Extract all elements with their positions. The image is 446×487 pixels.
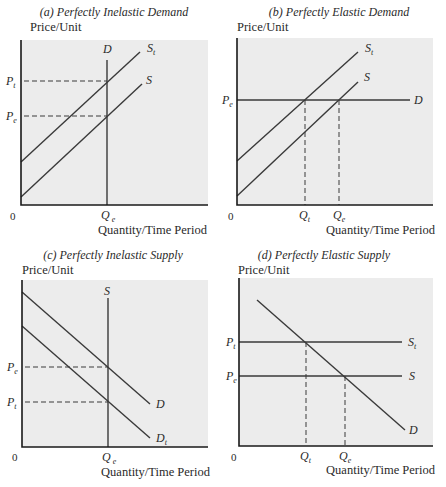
panel-a-xlabel: Quantity/Time Period bbox=[98, 223, 208, 237]
panel-b-ylabel: Price/Unit bbox=[237, 20, 289, 34]
panel-b-plot-area bbox=[237, 38, 433, 205]
panel-d-origin: 0 bbox=[231, 451, 237, 463]
panel-b: (b) Perfectly Elastic Demand Price/Unit … bbox=[221, 5, 436, 237]
panel-a-plot-area bbox=[21, 40, 208, 205]
tax-incidence-figure: (a) Perfectly Inelastic Demand Price/Uni… bbox=[0, 0, 446, 487]
panel-c-origin: 0 bbox=[12, 451, 18, 463]
panel-a-pe-label: Pe bbox=[5, 109, 17, 125]
panel-d-s-label: S bbox=[409, 369, 415, 383]
panel-c-qe-label: Qe bbox=[102, 450, 117, 466]
panel-a: (a) Perfectly Inelastic Demand Price/Uni… bbox=[5, 5, 208, 237]
panel-d-ylabel: Price/Unit bbox=[238, 263, 290, 277]
panel-b-pe-label: Pe bbox=[221, 93, 233, 109]
panel-d-pe-label: Pe bbox=[225, 369, 237, 385]
panel-b-xlabel: Quantity/Time Period bbox=[326, 223, 436, 237]
panel-a-origin: 0 bbox=[10, 210, 16, 222]
panel-b-origin: 0 bbox=[228, 210, 234, 222]
panel-c-ylabel: Price/Unit bbox=[22, 263, 74, 277]
panel-a-qe-label: Qe bbox=[101, 208, 116, 224]
panel-d-pt-label: Pt bbox=[225, 335, 236, 351]
panel-a-title: (a) Perfectly Inelastic Demand bbox=[40, 5, 189, 19]
panel-a-d-label: D bbox=[102, 42, 112, 56]
panel-b-s-label: S bbox=[364, 70, 370, 84]
panel-c: (c) Perfectly Inelastic Supply Price/Uni… bbox=[6, 248, 211, 479]
panel-c-pe-label: Pe bbox=[6, 360, 18, 376]
panel-c-d-label: D bbox=[155, 397, 165, 411]
panel-d-title: (d) Perfectly Elastic Supply bbox=[258, 248, 391, 262]
panel-c-plot-area bbox=[22, 280, 208, 447]
panel-a-s-label: S bbox=[146, 73, 152, 87]
panel-d-qt-label: Qt bbox=[300, 449, 312, 465]
panel-d: (d) Perfectly Elastic Supply Price/Unit … bbox=[225, 248, 436, 477]
panel-b-d-label: D bbox=[413, 93, 423, 107]
panel-b-qe-label: Qe bbox=[333, 208, 346, 224]
panel-c-xlabel: Quantity/Time Period bbox=[101, 465, 211, 479]
panel-a-pt-label: Pt bbox=[5, 74, 16, 90]
panel-d-xlabel: Quantity/Time Period bbox=[326, 463, 436, 477]
panel-a-ylabel: Price/Unit bbox=[30, 20, 82, 34]
panel-c-title: (c) Perfectly Inelastic Supply bbox=[43, 248, 183, 262]
panel-d-plot-area bbox=[239, 278, 433, 446]
panel-b-qt-label: Qt bbox=[299, 208, 311, 224]
panel-c-s-label: S bbox=[104, 284, 110, 298]
panel-b-title: (b) Perfectly Elastic Demand bbox=[269, 5, 410, 19]
panel-c-pt-label: Pt bbox=[6, 395, 17, 411]
panel-d-d-label: D bbox=[408, 423, 418, 437]
